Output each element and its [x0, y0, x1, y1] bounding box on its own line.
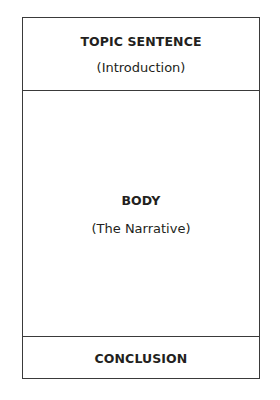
body-subtitle: (The Narrative) — [23, 221, 259, 236]
paragraph-structure-diagram: TOPIC SENTENCE (Introduction) BODY (The … — [22, 17, 260, 379]
topic-sentence-title: TOPIC SENTENCE — [23, 34, 259, 49]
topic-sentence-subtitle: (Introduction) — [23, 60, 259, 75]
topic-sentence-section: TOPIC SENTENCE (Introduction) — [23, 18, 259, 91]
body-title: BODY — [23, 193, 259, 208]
body-section: BODY (The Narrative) — [23, 91, 259, 337]
conclusion-section: CONCLUSION — [23, 337, 259, 378]
conclusion-title: CONCLUSION — [23, 351, 259, 366]
